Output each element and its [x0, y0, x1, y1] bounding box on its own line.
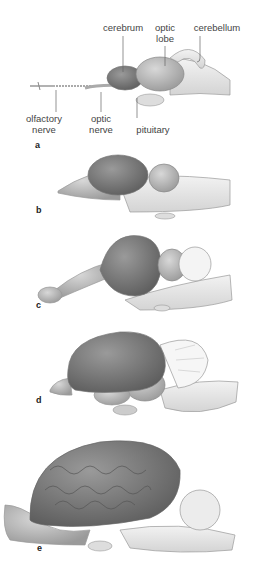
label-optic-nerve-line1: optic	[86, 113, 116, 124]
brain-d	[50, 332, 238, 415]
label-optic-nerve: optic nerve	[86, 113, 116, 135]
label-olfactory-nerve-line1: olfactory	[22, 113, 66, 124]
brain-drawings	[0, 0, 255, 580]
brain-e	[4, 441, 235, 552]
label-cerebrum: cerebrum	[100, 22, 146, 33]
panel-label-b: b	[36, 205, 42, 215]
panel-label-c: c	[36, 300, 41, 310]
brain-c	[38, 236, 232, 311]
panel-label-a: a	[35, 140, 40, 150]
panel-label-d: d	[36, 395, 42, 405]
label-optic-lobe-line1: optic	[148, 22, 182, 33]
brain-a	[30, 36, 230, 118]
label-pituitary: pituitary	[130, 124, 176, 135]
label-optic-nerve-line2: nerve	[86, 124, 116, 135]
label-olfactory-nerve-line2: nerve	[22, 124, 66, 135]
label-olfactory-nerve: olfactory nerve	[22, 113, 66, 135]
brain-b	[58, 155, 230, 219]
label-optic-lobe-line2: lobe	[148, 33, 182, 44]
label-cerebellum: cerebellum	[188, 22, 246, 33]
panel-label-e: e	[37, 543, 42, 553]
label-optic-lobe: optic lobe	[148, 22, 182, 44]
